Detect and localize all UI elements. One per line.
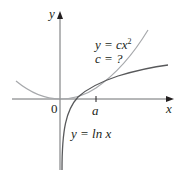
question-c: c = ? xyxy=(95,52,123,65)
ln-curve xyxy=(62,65,168,170)
x-axis-label: x xyxy=(166,102,172,115)
y-axis-arrow-icon xyxy=(57,11,63,19)
parabola-equation: y = cx2 xyxy=(95,38,132,51)
graph-canvas xyxy=(0,0,183,178)
ln-equation: y = ln x xyxy=(71,127,111,140)
tick-label-a: a xyxy=(92,104,99,117)
origin-label: 0 xyxy=(51,102,58,115)
parabola-exponent: 2 xyxy=(128,37,132,46)
y-axis-label: y xyxy=(49,7,55,20)
